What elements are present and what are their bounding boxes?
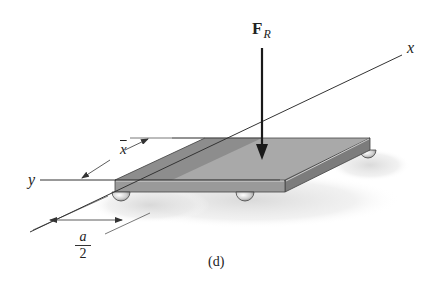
- xbar-label: x: [120, 142, 127, 157]
- x-axis-label: x: [407, 40, 414, 56]
- y-axis-label: y: [28, 172, 35, 188]
- plate-front-face: [115, 180, 285, 192]
- half-a-denominator: 2: [75, 246, 91, 261]
- plate-diagram: [0, 0, 438, 296]
- half-a-label: a 2: [75, 230, 91, 261]
- force-symbol: F: [252, 19, 262, 38]
- force-subscript: R: [263, 27, 270, 41]
- resultant-force-label: FR: [252, 20, 271, 37]
- half-a-numerator: a: [75, 230, 91, 246]
- figure-caption: (d): [208, 255, 224, 269]
